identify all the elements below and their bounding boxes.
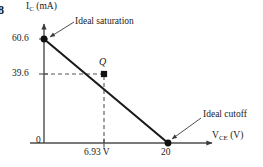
saturation-leader-line <box>50 22 74 37</box>
y-axis-subscript: C <box>29 5 34 13</box>
q-point-label: Q <box>99 57 106 67</box>
y-axis-label: IC (mA) <box>26 2 57 12</box>
y-tick-label-q: 39.6 <box>12 69 29 79</box>
point-ideal-saturation <box>41 36 48 43</box>
point-ideal-cutoff <box>165 140 172 147</box>
figure-container: 8 IC (mA) <box>0 0 263 167</box>
ideal-cutoff-label: Ideal cutoff <box>203 110 247 120</box>
origin-label: 0 <box>36 136 41 146</box>
x-axis-units: (V) <box>228 130 244 140</box>
x-tick-label-q: 6.93 V <box>84 148 110 158</box>
y-axis-units: (mA) <box>34 1 57 11</box>
x-axis-subscript: CE <box>219 134 228 142</box>
x-axis-symbol: V <box>212 130 219 140</box>
dc-load-line <box>44 39 168 143</box>
cutoff-leader-line <box>172 118 201 139</box>
ideal-saturation-label: Ideal saturation <box>75 17 134 27</box>
y-tick-label-saturation: 60.6 <box>12 34 29 44</box>
x-tick-label-cutoff: 20 <box>161 148 171 158</box>
x-axis-label: VCE (V) <box>212 131 243 141</box>
point-q <box>101 71 107 77</box>
